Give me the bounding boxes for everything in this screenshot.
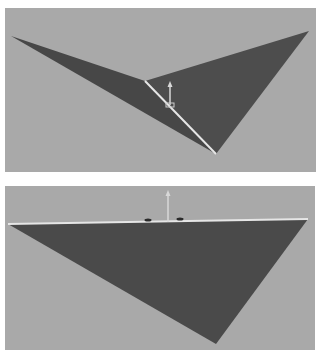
viewport-perspective[interactable] xyxy=(5,8,316,172)
viewport-front[interactable] xyxy=(5,186,315,350)
viewport-canvas[interactable] xyxy=(5,186,315,350)
mesh-face-main[interactable] xyxy=(8,219,308,344)
axis-marker-icon xyxy=(177,218,184,221)
screenshot-stage xyxy=(0,0,322,356)
transform-gizmo-icon[interactable] xyxy=(166,190,171,222)
axis-marker-icon xyxy=(145,219,152,222)
viewport-canvas[interactable] xyxy=(5,8,316,172)
